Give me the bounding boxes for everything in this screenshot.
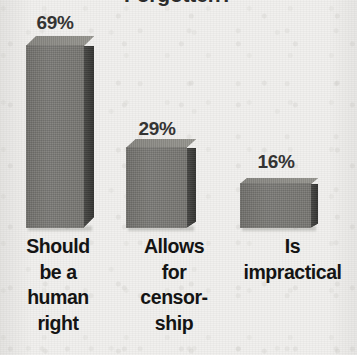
category-label-2-line-4: ship <box>118 311 230 337</box>
category-label-3-line-2: impractical <box>228 260 357 286</box>
bar-chart-figure: Forgotten? 69% 29% 16% Should be a human… <box>0 0 357 355</box>
value-label-bar-1: 69% <box>22 12 88 34</box>
category-label-2-line-3: censor- <box>118 285 230 311</box>
bar-group-should-be-a-human-right <box>26 36 96 228</box>
chart-title-clip: Forgotten? <box>0 0 357 7</box>
bar-side-face <box>83 46 94 228</box>
bar-group-allows-for-censorship <box>126 139 198 228</box>
category-label-2: Allows for censor- ship <box>118 234 230 336</box>
category-label-1-line-3: human <box>0 285 116 311</box>
bar-side-face <box>186 148 196 228</box>
bar-front-face <box>240 183 311 228</box>
category-label-3-line-1: Is <box>228 234 357 260</box>
category-label-1-line-2: be a <box>0 260 116 286</box>
category-label-3: Is impractical <box>228 234 357 285</box>
bar-side-face <box>310 184 318 228</box>
category-label-1: Should be a human right <box>0 234 116 336</box>
value-label-bar-3: 16% <box>243 151 309 173</box>
category-label-1-line-1: Should <box>0 234 116 260</box>
category-label-2-line-2: for <box>118 260 230 286</box>
value-label-bar-2: 29% <box>124 118 190 140</box>
bar-group-is-impractical <box>240 178 320 228</box>
page-title: Forgotten? <box>0 0 357 7</box>
category-label-1-line-4: right <box>0 311 116 337</box>
category-label-2-line-1: Allows <box>118 234 230 260</box>
bar-front-face <box>126 147 187 228</box>
bar-front-face <box>26 45 84 228</box>
